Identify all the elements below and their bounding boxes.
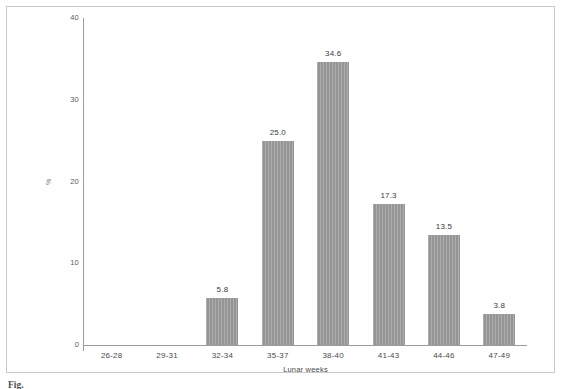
bar-32-34[interactable] (206, 298, 238, 345)
x-axis-tick-44-46: 44-46 (416, 351, 471, 360)
bar-group-44-46[interactable]: 13.5 (416, 18, 471, 345)
x-axis-tick-41-43: 41-43 (361, 351, 416, 360)
bar-41-43[interactable] (373, 204, 405, 345)
x-axis-tick-35-37: 35-37 (250, 351, 305, 360)
figure-caption-label: Fig. (8, 380, 24, 389)
x-axis-tick-26-28: 26-28 (84, 351, 139, 360)
bar-group-35-37[interactable]: 25.0 (250, 18, 305, 345)
y-axis-tick-20: 20 (51, 177, 79, 186)
x-axis-title: Lunar weeks (84, 365, 527, 374)
bar-47-49[interactable] (483, 314, 515, 345)
bar-value-label-41-43: 17.3 (380, 191, 396, 200)
bar-group-32-34[interactable]: 5.8 (195, 18, 250, 345)
y-axis-title: % (45, 179, 52, 185)
bar-value-label-47-49: 3.8 (493, 301, 505, 310)
x-axis-line (83, 345, 527, 346)
y-axis-tick-10: 10 (51, 258, 79, 267)
bar-value-label-32-34: 5.8 (217, 285, 229, 294)
bar-group-26-28[interactable] (84, 18, 139, 345)
x-axis-tick-47-49: 47-49 (472, 351, 527, 360)
bar-group-38-40[interactable]: 34.6 (306, 18, 361, 345)
bar-value-label-35-37: 25.0 (270, 128, 286, 137)
bar-35-37[interactable] (262, 141, 294, 345)
y-axis-tick-40: 40 (51, 13, 79, 22)
figure-caption: Fig. (8, 380, 556, 389)
x-axis-tick-38-40: 38-40 (306, 351, 361, 360)
bar-value-label-38-40: 34.6 (325, 49, 341, 58)
figure-frame: 010203040 % 5.825.034.617.313.53.8 26-28… (6, 6, 555, 373)
bar-value-label-44-46: 13.5 (436, 222, 452, 231)
bar-group-41-43[interactable]: 17.3 (361, 18, 416, 345)
bar-44-46[interactable] (428, 235, 460, 345)
bar-group-47-49[interactable]: 3.8 (472, 18, 527, 345)
x-axis-tick-labels: 26-2829-3132-3435-3738-4041-4344-4647-49 (84, 351, 527, 365)
bar-group-29-31[interactable] (139, 18, 194, 345)
bars-layer: 5.825.034.617.313.53.8 (84, 18, 527, 345)
y-axis-tick-0: 0 (51, 340, 79, 349)
bar-chart: 010203040 % 5.825.034.617.313.53.8 26-28… (7, 7, 556, 374)
x-axis-tick-32-34: 32-34 (195, 351, 250, 360)
bar-38-40[interactable] (317, 62, 349, 345)
x-axis-tick-29-31: 29-31 (139, 351, 194, 360)
y-axis-tick-30: 30 (51, 95, 79, 104)
